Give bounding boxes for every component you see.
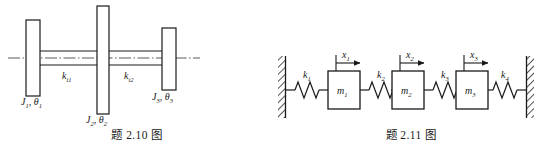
torsional-shaft-drawing: kt1 kt2 J1, θ1 J2, θ2 J3, θ3 [0, 0, 274, 126]
figure-page: kt1 kt2 J1, θ1 J2, θ2 J3, θ3 题 2.10 图 [0, 0, 548, 156]
spring-k4 [488, 82, 527, 98]
figure-caption-left: 题 2.10 图 [0, 126, 274, 142]
label-shaft-stiffness-1: kt1 [62, 70, 72, 83]
spring-k1 [286, 82, 329, 98]
label-spring-k2: k2 [377, 69, 385, 82]
displacement-x2: x2 [400, 49, 424, 71]
label-x1: x1 [341, 49, 350, 62]
disc-2 [97, 6, 109, 114]
label-spring-k3: k3 [441, 69, 449, 82]
label-disc-2: J2, θ2 [86, 114, 108, 126]
figure-mass-spring-chain: x1 x2 x3 k1 k2 k3 k4 m1 m2 m3 [274, 0, 548, 156]
mass-spring-drawing: x1 x2 x3 k1 k2 k3 k4 m1 m2 m3 [274, 0, 548, 126]
label-x2: x2 [405, 49, 414, 62]
label-disc-3: J3, θ3 [152, 91, 174, 104]
displacement-x3: x3 [464, 49, 488, 71]
spring-k2 [360, 82, 393, 98]
figure-torsional-shaft: kt1 kt2 J1, θ1 J2, θ2 J3, θ3 题 2.10 图 [0, 0, 274, 156]
wall-left [278, 56, 286, 118]
spring-k3 [424, 82, 457, 98]
figure-caption-right: 题 2.11 图 [274, 126, 548, 142]
label-spring-k4: k4 [501, 69, 509, 82]
label-spring-k1: k1 [303, 69, 311, 82]
displacement-x1: x1 [336, 49, 360, 71]
label-x3: x3 [469, 49, 478, 62]
label-shaft-stiffness-2: kt2 [124, 70, 134, 83]
label-disc-1: J1, θ1 [21, 96, 42, 109]
disc-1 [26, 20, 40, 96]
disc-3 [162, 28, 176, 90]
wall-right [527, 56, 535, 118]
